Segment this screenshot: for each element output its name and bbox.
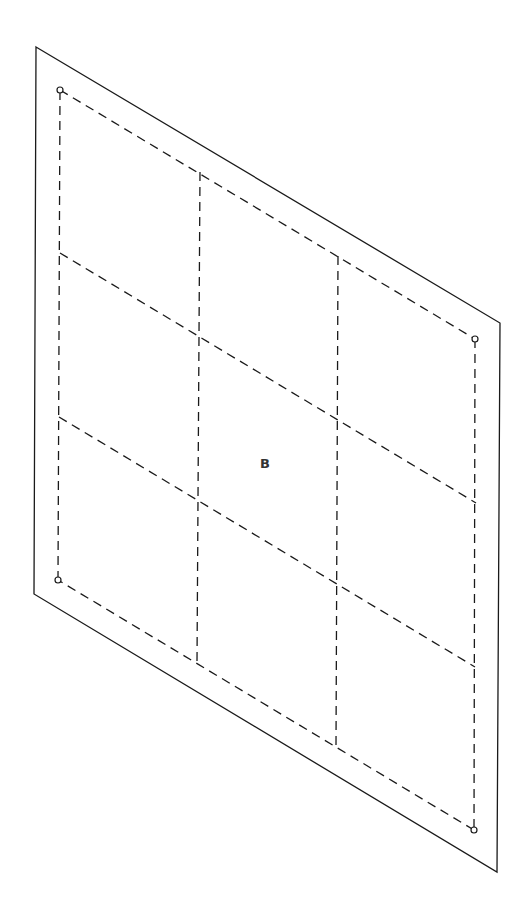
corner-hole-icon	[55, 577, 61, 583]
inner-boundary-bottom	[58, 580, 474, 830]
corner-hole-icon	[472, 336, 478, 342]
corner-hole-icon	[57, 87, 63, 93]
panel-label: B	[260, 456, 270, 471]
inner-boundary-left	[58, 90, 60, 580]
vertical-fold-line	[336, 256, 338, 747]
panel-diagram: B	[0, 0, 528, 917]
inner-boundary-top	[60, 90, 475, 339]
inner-boundary-right	[474, 339, 475, 830]
vertical-fold-line	[197, 172, 200, 663]
horizontal-fold-line	[59, 417, 475, 667]
corner-hole-icon	[471, 827, 477, 833]
